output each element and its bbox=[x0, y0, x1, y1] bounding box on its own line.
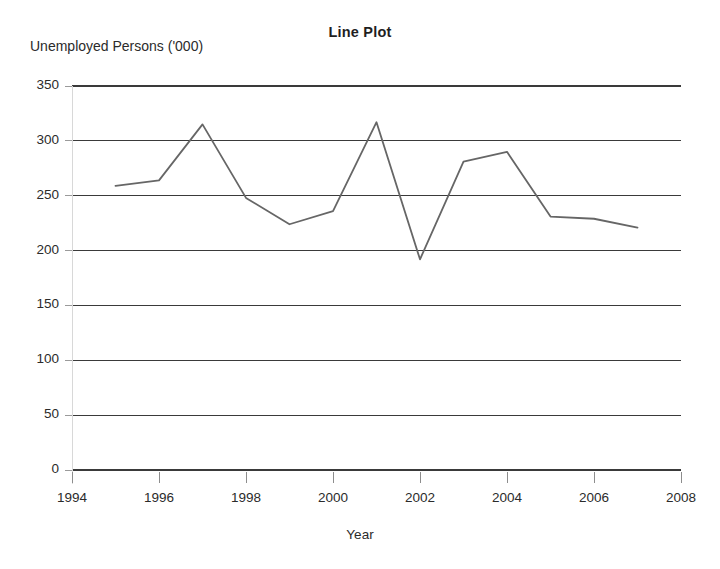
y-tick-label: 50 bbox=[7, 406, 59, 421]
x-tick-label: 1994 bbox=[37, 490, 107, 505]
x-tick-label: 2008 bbox=[646, 490, 716, 505]
y-tick-label: 350 bbox=[7, 77, 59, 92]
gridlines bbox=[72, 86, 681, 484]
data-series-line bbox=[116, 122, 638, 259]
y-tick-label: 0 bbox=[7, 461, 59, 476]
y-tick-label: 300 bbox=[7, 132, 59, 147]
x-tick-label: 1998 bbox=[211, 490, 281, 505]
y-axis-tick-marks bbox=[65, 86, 72, 470]
x-tick-label: 2006 bbox=[559, 490, 629, 505]
y-tick-label: 150 bbox=[7, 296, 59, 311]
y-tick-label: 200 bbox=[7, 242, 59, 257]
x-tick-label: 2004 bbox=[472, 490, 542, 505]
plot-area bbox=[0, 0, 720, 569]
x-axis-ticks bbox=[72, 472, 681, 483]
y-tick-label: 100 bbox=[7, 351, 59, 366]
x-axis-label: Year bbox=[0, 527, 720, 542]
x-tick-label: 2000 bbox=[298, 490, 368, 505]
line-chart: Line Plot Unemployed Persons ('000) 0501… bbox=[0, 0, 720, 569]
x-tick-label: 2002 bbox=[385, 490, 455, 505]
y-tick-label: 250 bbox=[7, 187, 59, 202]
x-tick-label: 1996 bbox=[124, 490, 194, 505]
